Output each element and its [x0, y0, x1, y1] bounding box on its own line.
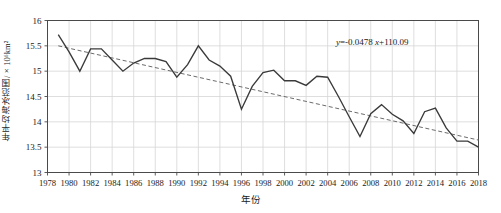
- x-tick-label: 1990: [168, 178, 185, 188]
- x-tick-label: 2000: [276, 178, 293, 188]
- equation-tail: +110.09: [379, 37, 409, 47]
- x-tick-label: 2016: [448, 178, 466, 188]
- y-tick-label: 13.5: [26, 142, 42, 152]
- y-tick-label: 14.5: [26, 92, 42, 102]
- x-tick-label: 1992: [190, 178, 207, 188]
- y-axis-title: 年平均海冰范围/×10⁶km²: [0, 16, 15, 166]
- x-tick-label: 1980: [60, 178, 77, 188]
- y-tick-label: 13: [33, 168, 43, 178]
- x-tick-label: 2004: [319, 178, 337, 188]
- chart-figure: 年平均海冰范围/×10⁶km² 197819801982198419861988…: [0, 0, 501, 213]
- y-tick-label: 15: [33, 66, 43, 76]
- x-tick-label: 1988: [147, 178, 164, 188]
- x-tick-label: 1984: [104, 178, 122, 188]
- data-series-line: [58, 35, 478, 147]
- x-tick-label: 1996: [233, 178, 251, 188]
- x-tick-label: 2012: [405, 178, 422, 188]
- x-tick-label: 2008: [362, 178, 379, 188]
- x-axis-tick-labels: 1978198019821984198619881990199219941996…: [39, 178, 487, 188]
- trend-line: [58, 46, 478, 140]
- axis-ticks: [45, 21, 479, 176]
- y-tick-label: 15.5: [26, 41, 42, 51]
- trend-equation-annotation: y=-0.0478 x+110.09: [336, 37, 409, 47]
- y-axis-tick-labels: 1313.51414.51515.516: [26, 16, 42, 178]
- x-tick-label: 1994: [211, 178, 229, 188]
- x-tick-label: 2014: [427, 178, 445, 188]
- equation-body: =-0.0478: [340, 37, 375, 47]
- x-tick-label: 1978: [39, 178, 56, 188]
- x-tick-label: 1982: [82, 178, 99, 188]
- x-tick-label: 2018: [470, 178, 487, 188]
- x-tick-label: 1986: [125, 178, 143, 188]
- grid-lines: [48, 21, 479, 173]
- y-tick-label: 16: [33, 16, 43, 26]
- x-tick-label: 1998: [254, 178, 271, 188]
- x-axis-title: 年份: [0, 192, 501, 206]
- y-tick-label: 14: [33, 117, 43, 127]
- x-tick-label: 2002: [298, 178, 315, 188]
- line-chart-plot: 1978198019821984198619881990199219941996…: [0, 0, 501, 213]
- x-tick-label: 2010: [384, 178, 401, 188]
- x-tick-label: 2006: [341, 178, 359, 188]
